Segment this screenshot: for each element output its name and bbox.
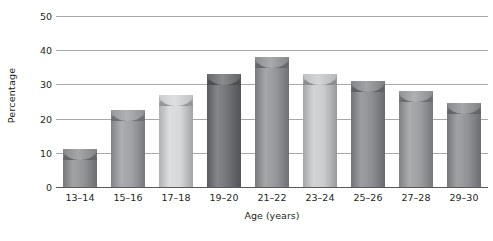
bar-cylinder[interactable] [207,74,241,187]
y-axis-tick-label: 20 [24,113,52,124]
x-axis-tick-label: 25–26 [344,192,392,203]
bar-cylinder[interactable] [63,149,97,187]
y-axis-tick-label: 10 [24,147,52,158]
bar-cylinder[interactable] [255,57,289,187]
cylinder-body [207,74,241,187]
gridline [56,187,488,188]
cylinder-body [399,91,433,187]
x-axis-title: Age (years) [56,210,488,221]
cylinder-body [303,74,337,187]
bar-cylinder[interactable] [303,74,337,187]
y-axis-title: Percentage [0,0,24,190]
bar-column [207,16,241,187]
x-axis-tick-label: 19–20 [200,192,248,203]
cylinder-body [351,81,385,187]
y-axis-tick-label: 30 [24,79,52,90]
bar-column [159,16,193,187]
y-axis-title-label: Percentage [7,67,18,122]
x-axis-tick-label: 15–16 [104,192,152,203]
x-axis-tick-label: 29–30 [440,192,488,203]
cylinder-body [447,103,481,187]
bar-column [447,16,481,187]
x-axis-tick-label: 17–18 [152,192,200,203]
bar-cylinder[interactable] [159,95,193,187]
bar-chart: Percentage 01020304050 13–1415–1617–1819… [0,0,493,241]
bar-cylinder[interactable] [111,110,145,187]
x-axis-tick-label: 23–24 [296,192,344,203]
x-axis-tick-label: 21–22 [248,192,296,203]
bar-column [111,16,145,187]
x-axis-tick-label: 13–14 [56,192,104,203]
plot-area [56,16,488,187]
y-axis-tick-label: 0 [24,182,52,193]
bar-column [303,16,337,187]
y-axis-tick-label: 40 [24,45,52,56]
bars-layer [56,16,488,187]
bar-column [351,16,385,187]
cylinder-body [159,95,193,187]
bar-column [255,16,289,187]
bar-cylinder[interactable] [351,81,385,187]
cylinder-body [111,110,145,187]
bar-column [63,16,97,187]
bar-column [399,16,433,187]
y-axis-tick-label: 50 [24,11,52,22]
bar-cylinder[interactable] [447,103,481,187]
bar-cylinder[interactable] [399,91,433,187]
cylinder-body [255,57,289,187]
x-axis-tick-label: 27–28 [392,192,440,203]
